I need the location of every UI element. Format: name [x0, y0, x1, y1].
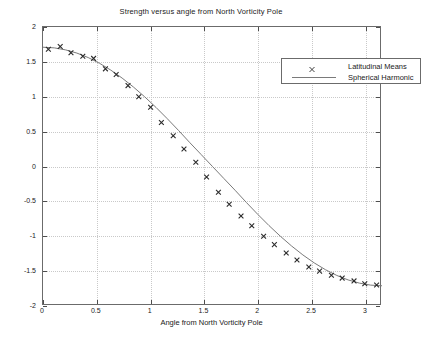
x-tick-label: 1.5	[199, 307, 209, 314]
data-marker-x-icon	[329, 273, 334, 278]
data-marker-x-icon	[317, 269, 322, 274]
data-marker-x-icon	[126, 83, 131, 88]
legend-line-icon	[292, 77, 336, 78]
data-marker-x-icon	[159, 120, 164, 125]
y-tick-label: 2	[0, 23, 36, 30]
x-tick-label: 3	[363, 307, 367, 314]
y-tick-label: -2	[0, 302, 36, 309]
data-marker-x-icon	[193, 160, 198, 165]
plot-area: Latitudinal Means Spherical Harmonic	[42, 26, 381, 305]
legend-label-spherical-harmonic: Spherical Harmonic	[348, 72, 413, 83]
legend-label-latitudinal-means: Latitudinal Means	[348, 61, 407, 72]
data-marker-x-icon	[171, 133, 176, 138]
chart-title: Strength versus angle from North Vortici…	[0, 7, 402, 16]
y-tick-label: -0.5	[0, 197, 36, 204]
data-marker-x-icon	[295, 258, 300, 263]
data-marker-x-icon	[58, 44, 63, 49]
y-tick-label: 1.5	[0, 57, 36, 64]
data-marker-x-icon	[272, 242, 277, 247]
y-tick-label: 0.5	[0, 127, 36, 134]
data-marker-x-icon	[148, 105, 153, 110]
data-marker-x-icon	[261, 234, 266, 239]
data-marker-x-icon	[216, 190, 221, 195]
legend-sample-line	[282, 72, 344, 83]
data-marker-x-icon	[249, 223, 254, 228]
y-axis-tick	[376, 306, 380, 307]
x-tick-label: 2	[255, 307, 259, 314]
data-marker-x-icon	[114, 72, 119, 77]
data-marker-x-icon	[284, 251, 289, 256]
y-tick-label: 0	[0, 162, 36, 169]
y-tick-label: -1	[0, 232, 36, 239]
x-tick-label: 1	[148, 307, 152, 314]
legend-sample-marker	[282, 61, 344, 72]
x-axis-title: Angle from North Vorticity Pole	[42, 318, 381, 327]
legend-entry-spherical-harmonic: Spherical Harmonic	[282, 72, 422, 83]
data-marker-x-icon	[227, 202, 232, 207]
x-tick-label: 0	[40, 307, 44, 314]
x-tick-label: 0.5	[91, 307, 101, 314]
legend-entry-latitudinal-means: Latitudinal Means	[282, 61, 422, 72]
data-marker-x-icon	[239, 214, 244, 219]
y-tick-label: 1	[0, 92, 36, 99]
x-tick-label: 2.5	[306, 307, 316, 314]
data-marker-x-icon	[306, 265, 311, 270]
y-tick-label: -1.5	[0, 267, 36, 274]
data-marker-x-icon	[204, 175, 209, 180]
legend-box: Latitudinal Means Spherical Harmonic	[281, 58, 421, 84]
data-marker-x-icon	[136, 94, 141, 99]
data-marker-x-icon	[182, 147, 187, 152]
